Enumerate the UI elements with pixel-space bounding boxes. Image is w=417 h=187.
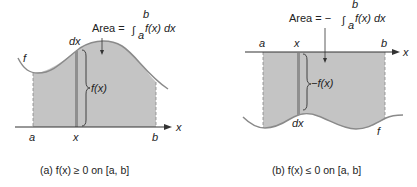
tick-a-a: a xyxy=(29,131,35,143)
dx-label-a: dx xyxy=(69,35,81,47)
integral-sign-b: ∫ xyxy=(341,14,346,27)
height-label-a: f(x) xyxy=(91,82,107,94)
upper-limit-b: b xyxy=(352,0,358,10)
upper-limit-a: b xyxy=(143,8,149,20)
strip-dx-a xyxy=(75,51,78,127)
integral-area-diagram: Area = ∫ b a f(x) dx dx f(x) f x a x b (… xyxy=(0,0,417,187)
area-label-a: Area = xyxy=(92,22,125,34)
panel-b: Area = − ∫ b a f(x) dx a x b x −f(x) dx … xyxy=(243,0,409,176)
x-axis-arrow-b xyxy=(392,49,400,55)
caption-b: (b) f(x) ≤ 0 on [a, b] xyxy=(272,164,361,176)
tick-b-b: b xyxy=(381,37,387,49)
integrand-a: f(x) dx xyxy=(145,22,176,34)
x-axis-arrow-a xyxy=(164,124,172,130)
integral-sign-a: ∫ xyxy=(131,24,136,37)
panel-a: Area = ∫ b a f(x) dx dx f(x) f x a x b (… xyxy=(15,8,182,176)
curve-label-b: f xyxy=(377,125,381,137)
tick-a-b: a xyxy=(259,37,265,49)
height-label-b: −f(x) xyxy=(311,77,334,89)
area-label-b: Area = − xyxy=(289,12,331,24)
tick-b-a: b xyxy=(152,131,158,143)
integrand-b: f(x) dx xyxy=(355,12,386,24)
axis-label-b: x xyxy=(402,46,409,58)
tick-x-a: x xyxy=(72,131,79,143)
shaded-area-b xyxy=(263,52,385,129)
axis-label-a: x xyxy=(175,121,182,133)
tick-x-b: x xyxy=(293,37,300,49)
lower-limit-b: a xyxy=(348,19,354,31)
curve-label-a: f xyxy=(23,52,27,64)
dx-label-b: dx xyxy=(292,117,304,129)
caption-a: (a) f(x) ≥ 0 on [a, b] xyxy=(40,164,129,176)
lower-limit-a: a xyxy=(138,29,144,41)
strip-dx-b xyxy=(297,53,300,115)
